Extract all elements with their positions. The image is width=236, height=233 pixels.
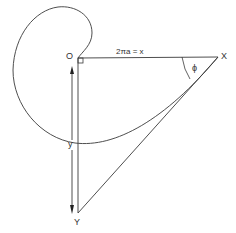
angle-arc-phi: [182, 57, 190, 79]
tangent-line-x-to-y: [78, 57, 218, 213]
spiral-curve: [13, 7, 218, 144]
label-angle-phi: ϕ: [192, 64, 197, 73]
label-point-y: Y: [74, 218, 80, 227]
label-point-x: X: [221, 52, 227, 61]
label-vertical-length: y: [68, 140, 73, 149]
right-angle-marker: [78, 58, 83, 63]
arrowhead-up-icon: [70, 66, 74, 74]
diagram-canvas: [0, 0, 236, 233]
label-horizontal-length: 2πa = x: [116, 48, 144, 56]
arrowhead-down-icon: [70, 205, 74, 214]
label-origin-o: O: [66, 52, 73, 61]
line-o-to-x: [78, 57, 218, 58]
